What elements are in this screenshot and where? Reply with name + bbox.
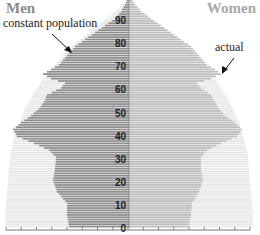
men-bar [28, 117, 129, 119]
women-bar [129, 94, 211, 96]
men-bar [46, 96, 129, 98]
women-bar [129, 92, 208, 94]
age-tick-label: 0 [120, 223, 126, 234]
women-bar [129, 198, 195, 200]
women-bar [129, 78, 211, 80]
men-label: Men [6, 0, 35, 17]
women-bar [129, 41, 184, 43]
men-bar [125, 4, 129, 6]
women-bar [129, 173, 202, 175]
women-bar [129, 119, 232, 121]
women-bar [129, 82, 197, 84]
women-bar [129, 223, 189, 225]
men-bar [14, 131, 129, 133]
population-pyramid-chart: 0102030405060708090 Men Women constant p… [0, 0, 260, 235]
women-bar [129, 34, 174, 36]
men-bar [126, 2, 129, 4]
women-bar [129, 166, 201, 168]
women-bar [129, 147, 212, 149]
women-bar [129, 184, 201, 186]
women-bar [129, 62, 205, 64]
men-bar [57, 191, 129, 193]
women-bar [129, 170, 201, 172]
women-bar [129, 76, 216, 78]
men-bar [67, 212, 129, 214]
women-bar [129, 168, 201, 170]
women-bar [129, 189, 200, 191]
women-bar [129, 52, 197, 54]
women-bar [129, 203, 192, 205]
women-bar [129, 154, 203, 156]
women-bar [129, 66, 211, 68]
women-bar [129, 207, 192, 209]
women-bar [129, 140, 226, 142]
women-bar [129, 145, 216, 147]
men-bar [65, 57, 129, 59]
men-bar [51, 78, 129, 80]
women-bar [129, 15, 148, 17]
women-bar [129, 27, 164, 29]
men-bar [45, 99, 129, 101]
women-bar [129, 29, 168, 31]
men-bar [49, 149, 129, 151]
age-tick-label: 40 [115, 131, 127, 142]
women-bar [129, 89, 204, 91]
women-bar [129, 161, 201, 163]
women-bar [129, 186, 201, 188]
men-bar [67, 214, 129, 216]
women-bar [129, 152, 205, 154]
men-bar [42, 103, 129, 105]
women-bar [129, 175, 202, 177]
women-bar [129, 210, 191, 212]
women-bar [129, 22, 158, 24]
age-tick-label: 80 [115, 38, 127, 49]
women-bar [129, 138, 232, 140]
women-bar [129, 50, 195, 52]
men-bar [47, 76, 129, 78]
men-bar [61, 196, 129, 198]
women-bar [129, 71, 218, 73]
women-bar [129, 87, 201, 89]
women-bar [129, 129, 242, 131]
age-tick-label: 60 [115, 84, 127, 95]
women-bar [129, 18, 151, 20]
men-bar [55, 170, 129, 172]
women-bar [129, 59, 203, 61]
women-bar [129, 46, 191, 48]
women-bar [129, 99, 214, 101]
age-tick-label: 70 [115, 61, 127, 72]
actual-annotation: actual [215, 40, 244, 55]
men-bar [43, 73, 129, 75]
women-bar [129, 131, 240, 133]
women-bar [129, 126, 240, 128]
men-bar [122, 9, 129, 11]
women-bar [129, 20, 154, 22]
women-bar [129, 191, 199, 193]
women-bar [129, 122, 235, 124]
women-bar [129, 143, 221, 145]
women-bar [129, 32, 171, 34]
women-bar [129, 43, 188, 45]
women-bar [129, 85, 199, 87]
men-bar [24, 119, 129, 121]
women-bar [129, 11, 141, 13]
men-bar [44, 147, 129, 149]
pyramid-plot: 0102030405060708090 [0, 0, 260, 235]
women-bar [129, 110, 221, 112]
women-bar [129, 196, 196, 198]
women-bar [129, 73, 221, 75]
women-bar [129, 106, 218, 108]
men-bar [67, 55, 129, 57]
men-bar [124, 6, 129, 8]
age-tick-label: 30 [115, 154, 127, 165]
men-bar [68, 219, 129, 221]
men-bar [95, 32, 129, 34]
women-bar [129, 64, 207, 66]
women-bar [129, 216, 191, 218]
women-bar [129, 136, 237, 138]
women-bar [129, 4, 135, 6]
men-bar [16, 126, 129, 128]
age-tick-label: 90 [115, 15, 127, 26]
women-bar [129, 205, 192, 207]
women-bar [129, 177, 203, 179]
